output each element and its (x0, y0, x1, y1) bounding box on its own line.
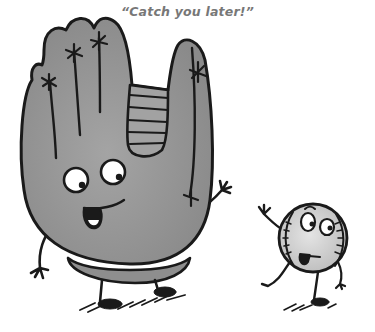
ball-left-leg (262, 262, 290, 286)
glove-left-leg (100, 280, 102, 302)
ball-foot (311, 298, 329, 306)
cartoon-scene (0, 0, 375, 332)
ball-right-arm (336, 262, 345, 289)
glove-left-eye (64, 168, 88, 192)
glove-left-foot (98, 299, 122, 309)
glove-right-eye (101, 160, 125, 184)
glove-body (21, 18, 212, 264)
ball-smile-line (309, 256, 320, 257)
glove-character (21, 18, 231, 312)
glove-right-foot (154, 287, 176, 297)
baseball-character (259, 204, 347, 311)
ball-right-leg (314, 272, 318, 300)
ball-ground-shadow (284, 304, 336, 311)
ball-waving-arm (259, 205, 280, 228)
glove-ground-shadow (80, 295, 185, 312)
